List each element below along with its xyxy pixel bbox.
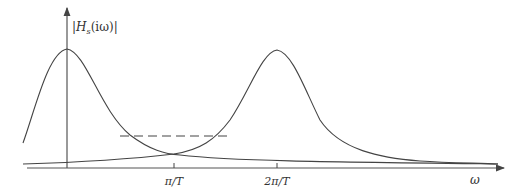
shifted-response-curve xyxy=(23,50,498,164)
diagram-canvas: |Hs(iω)| π/T 2π/T ω xyxy=(0,0,510,196)
x-axis-label: ω xyxy=(470,173,480,187)
y-axis-label: |Hs(iω)| xyxy=(72,20,118,36)
tick-label-2pi-over-t: 2π/T xyxy=(263,175,291,188)
tick-label-pi-over-t: π/T xyxy=(164,175,185,188)
